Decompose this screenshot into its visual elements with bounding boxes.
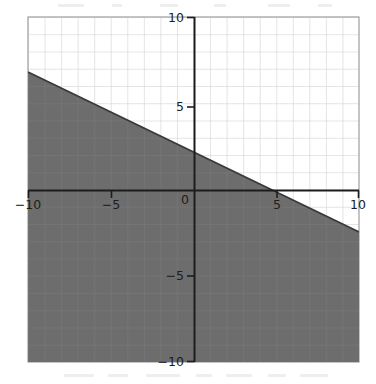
coordinate-plane-svg: 10 5 −5 −10 0 −10 −5 5 10 xyxy=(0,0,376,384)
x-axis-label-10: 10 xyxy=(350,197,366,212)
y-axis-label-10: 10 xyxy=(168,10,184,25)
x-axis-label-minus-5: −5 xyxy=(102,197,120,212)
x-axis-label-5: 5 xyxy=(273,197,281,212)
y-axis-label-minus-5: −5 xyxy=(166,268,184,283)
y-axis-label-minus-10: −10 xyxy=(158,354,184,369)
origin-label: 0 xyxy=(181,192,189,207)
graph-figure: 10 5 −5 −10 0 −10 −5 5 10 xyxy=(0,0,376,384)
x-axis-label-minus-10: −10 xyxy=(15,197,41,212)
y-axis-label-5: 5 xyxy=(176,99,184,114)
